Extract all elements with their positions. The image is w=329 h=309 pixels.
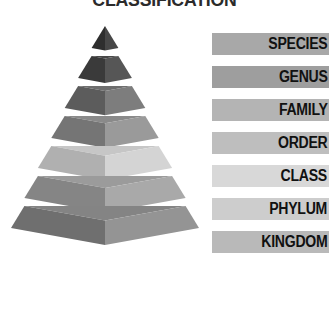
pyramid-tier-genus-left-face [78,56,105,83]
legend-item-class[interactable]: CLASS [212,165,329,187]
legend-item-order[interactable]: ORDER [212,132,329,154]
legend-item-phylum[interactable]: PHYLUM [212,198,329,220]
legend-label: KINGDOM [261,233,329,251]
pyramid-tier-species-right-face [105,26,118,50]
taxonomic-pyramid [0,0,210,309]
legend-label: CLASS [281,167,329,185]
classification-pyramid-figure: CLASSIFICATION SPECIESGENUSFAMILYORDERCL… [0,0,329,309]
legend-item-family[interactable]: FAMILY [212,99,329,121]
legend-label: SPECIES [268,35,329,53]
rank-legend: SPECIESGENUSFAMILYORDERCLASSPHYLUMKINGDO… [212,33,329,264]
legend-item-species[interactable]: SPECIES [212,33,329,55]
legend-item-genus[interactable]: GENUS [212,66,329,88]
legend-label: GENUS [278,68,329,86]
pyramid-svg [0,0,210,309]
legend-label: FAMILY [278,101,329,119]
legend-label: ORDER [278,134,329,152]
pyramid-tier-genus-right-face [105,56,132,83]
pyramid-tier-species-left-face [92,26,105,50]
legend-item-kingdom[interactable]: KINGDOM [212,231,329,253]
pyramid-tier-family-right-face [105,86,145,115]
pyramid-tier-family-left-face [65,86,105,115]
legend-label: PHYLUM [269,200,329,218]
